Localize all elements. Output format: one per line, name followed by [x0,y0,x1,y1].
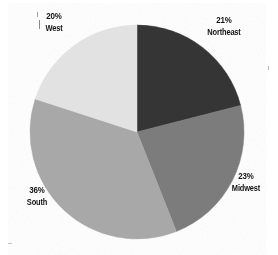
pie-chart: 21% Northeast 23% Midwest 36% South 20% … [0,0,278,255]
pie-label-northeast-value: 21% [191,15,258,26]
pie-label-midwest-name: Midwest [221,183,270,194]
pie-slice-group [30,25,244,239]
pie-label-south-value: 36% [13,185,61,196]
pie-label-midwest: 23% Midwest [221,171,270,193]
pie-label-northeast-name: Northeast [191,27,258,38]
pie-label-south: 36% South [13,185,61,207]
pie-label-northeast: 21% Northeast [191,15,258,37]
pie-chart-canvas [0,0,278,255]
scan-artifact [39,20,40,29]
scan-artifact [8,243,12,244]
pie-label-west-name: West [29,23,78,34]
pie-label-midwest-value: 23% [221,171,270,182]
scan-artifact [37,12,38,17]
pie-label-south-name: South [13,197,61,208]
scan-artifact [268,66,269,70]
